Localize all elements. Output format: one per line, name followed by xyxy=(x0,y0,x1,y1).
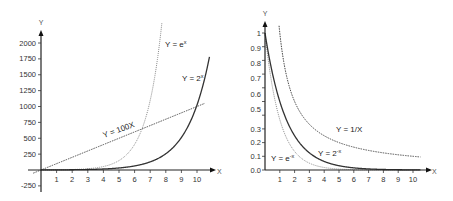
y-axis-title: Y xyxy=(39,19,44,26)
y-tick-label: 0.8 xyxy=(251,59,261,68)
y-tick-label: 2000 xyxy=(19,39,36,48)
y-tick-label: 1250 xyxy=(19,86,36,95)
y-tick-label: 0.3 xyxy=(251,125,261,134)
x-tick-label: 2 xyxy=(70,175,74,184)
x-tick-label: 7 xyxy=(148,175,152,184)
series-label: Y = 2x xyxy=(182,73,204,84)
y-tick-label: 750 xyxy=(23,118,36,127)
series-label: Y = ex xyxy=(165,39,187,50)
series-line-pow2neg xyxy=(265,33,420,170)
x-tick-label: 3 xyxy=(307,175,311,184)
x-axis-title: X xyxy=(432,168,437,175)
chart-canvas: XY12345678910-25025050075010001250150017… xyxy=(0,0,453,201)
x-tick-label: 4 xyxy=(101,175,105,184)
y-tick-label: -250 xyxy=(21,181,36,190)
series-label: Y = 100X xyxy=(102,120,137,140)
x-tick-label: 6 xyxy=(133,175,137,184)
left-chart-exponential-growth: XY12345678910-25025050075010001250150017… xyxy=(19,19,222,192)
x-tick-label: 4 xyxy=(322,175,326,184)
y-tick-label: 0.9 xyxy=(251,44,261,53)
y-tick-label: 1500 xyxy=(19,70,36,79)
x-tick-label: 3 xyxy=(86,175,90,184)
y-tick-label: 0.1 xyxy=(251,152,261,161)
x-tick-label: 8 xyxy=(164,175,168,184)
y-tick-label: 1000 xyxy=(19,102,36,111)
right-chart-decay: XY123456789100.00.10.20.30.50.60.70.80.9… xyxy=(251,10,437,184)
series-label: Y = e-x xyxy=(271,153,295,164)
series-group xyxy=(265,26,420,170)
y-tick-label: 250 xyxy=(23,150,36,159)
x-tick-label: 5 xyxy=(337,175,341,184)
x-tick-label: 1 xyxy=(55,175,59,184)
x-tick-label: 6 xyxy=(352,175,356,184)
series-line-exp xyxy=(41,23,162,170)
series-label: Y = 2-x xyxy=(318,148,342,159)
x-tick-label: 8 xyxy=(381,175,385,184)
series-line-inverse xyxy=(279,26,420,157)
y-tick-label: 0.6 xyxy=(251,90,261,99)
x-axis-title: X xyxy=(217,168,222,175)
x-tick-label: 10 xyxy=(409,175,417,184)
series-line-expneg xyxy=(265,33,420,170)
y-tick-label: 0.5 xyxy=(251,105,261,114)
y-tick-label: 1750 xyxy=(19,54,36,63)
y-tick-label: 500 xyxy=(23,134,36,143)
y-tick-label: 1 xyxy=(257,29,261,38)
series-line-linear100 xyxy=(33,103,205,173)
x-tick-label: 9 xyxy=(179,175,183,184)
y-axis-arrow-icon xyxy=(263,21,268,27)
x-tick-label: 10 xyxy=(193,175,201,184)
x-tick-label: 5 xyxy=(117,175,121,184)
y-axis-title: Y xyxy=(263,10,268,17)
series-label: Y = 1/X xyxy=(336,125,363,134)
y-tick-label: 0.7 xyxy=(251,74,261,83)
x-tick-label: 1 xyxy=(278,175,282,184)
y-axis-arrow-icon xyxy=(39,30,44,36)
x-tick-label: 2 xyxy=(293,175,297,184)
x-axis-arrow-icon xyxy=(210,168,216,173)
y-tick-label: 0.2 xyxy=(251,138,261,147)
x-tick-label: 9 xyxy=(396,175,400,184)
x-tick-label: 7 xyxy=(367,175,371,184)
y-tick-label: 0.0 xyxy=(251,166,261,175)
